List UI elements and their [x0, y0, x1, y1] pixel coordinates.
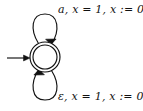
start-arrow-head: [24, 55, 31, 61]
state-inner-circle: [33, 45, 57, 69]
automaton-figure: a, x = 1, x := 0 ε, x = 1, x := 0: [0, 0, 143, 111]
transition-label-bottom: ε, x = 1, x := 0: [58, 90, 143, 103]
transition-label-top: a, x = 1, x := 0: [58, 3, 143, 16]
